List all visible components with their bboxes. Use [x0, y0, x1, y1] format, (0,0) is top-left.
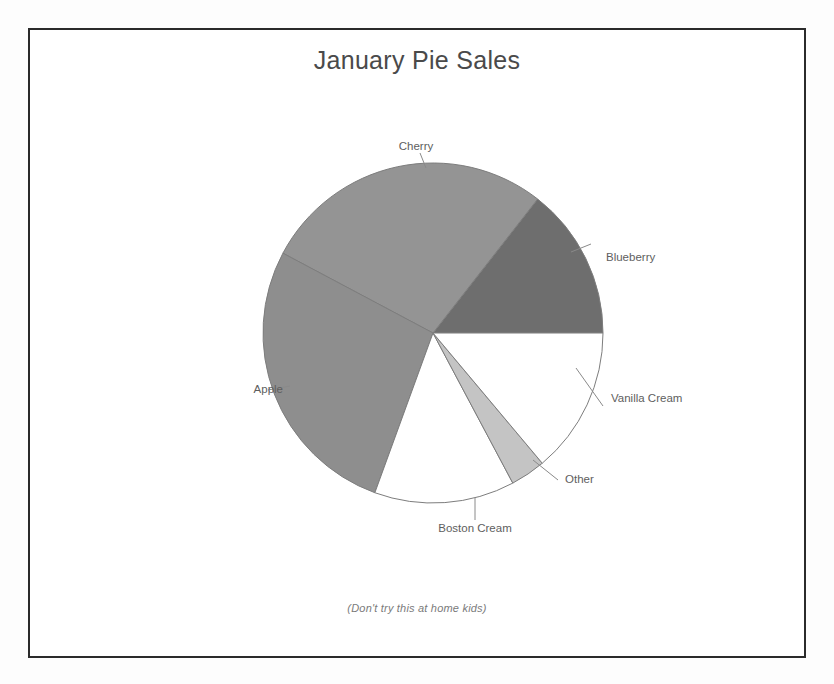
pie-chart-plot: BlueberryCherryAppleBoston CreamOtherVan… [28, 28, 806, 658]
chart-footnote: (Don't try this at home kids) [0, 602, 834, 614]
pie-label-other: Other [565, 473, 594, 485]
pie-label-boston-cream: Boston Cream [438, 522, 512, 534]
pie-label-vanilla-cream: Vanilla Cream [611, 392, 682, 404]
pie-label-cherry: Cherry [399, 140, 434, 152]
pie-label-apple: Apple [254, 383, 283, 395]
pie-slice-group [263, 163, 603, 503]
chart-page: January Pie Sales BlueberryCherryAppleBo… [0, 0, 834, 684]
pie-label-blueberry: Blueberry [606, 251, 655, 263]
leader-line-other [533, 460, 558, 480]
